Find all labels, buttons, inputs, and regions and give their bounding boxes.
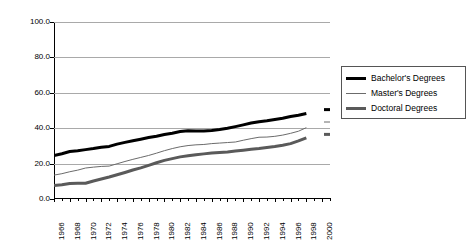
x-tick-label: 1982 xyxy=(184,222,192,240)
legend-swatch-bachelors-icon xyxy=(346,77,366,80)
x-tick-label: 1988 xyxy=(231,222,239,240)
x-tick-label: 1998 xyxy=(310,222,318,240)
x-tick-label: 1974 xyxy=(121,222,129,240)
legend-label-masters: Master's Degrees xyxy=(371,89,437,98)
legend-swatch-doctoral-icon xyxy=(346,107,366,110)
x-tick-label: 1984 xyxy=(200,222,208,240)
legend-item-doctoral: Doctoral Degrees xyxy=(346,101,461,116)
x-tick-label: 1978 xyxy=(153,222,161,240)
x-tick-label: 2000 xyxy=(326,222,334,240)
legend-label-bachelors: Bachelor's Degrees xyxy=(371,74,445,83)
x-tick-label: 1976 xyxy=(137,222,145,240)
x-tick-label: 1994 xyxy=(279,222,287,240)
x-tick-label: 1970 xyxy=(90,222,98,240)
series-line xyxy=(54,114,306,156)
legend-item-bachelors: Bachelor's Degrees xyxy=(346,71,461,86)
x-tick-label: 1990 xyxy=(247,222,255,240)
chart-legend: Bachelor's Degrees Master's Degrees Doct… xyxy=(341,66,466,119)
x-tick-label: 1980 xyxy=(168,222,176,240)
legend-label-doctoral: Doctoral Degrees xyxy=(371,104,437,113)
x-tick-label: 1996 xyxy=(295,222,303,240)
x-tick-label: 1968 xyxy=(74,222,82,240)
series-line xyxy=(54,128,306,175)
plot-area xyxy=(54,22,330,199)
x-tick-label: 1972 xyxy=(105,222,113,240)
series-line xyxy=(54,138,306,186)
series-lines xyxy=(54,22,330,199)
x-tick-label: 1986 xyxy=(216,222,224,240)
legend-swatch-masters-icon xyxy=(346,93,366,94)
x-tick-label: 1992 xyxy=(263,222,271,240)
x-tick-label: 1966 xyxy=(58,222,66,240)
chart-figure: 0.020.040.060.080.0100.0 196619681970197… xyxy=(0,0,471,246)
legend-item-masters: Master's Degrees xyxy=(346,86,461,101)
x-tick-mark xyxy=(330,198,331,201)
